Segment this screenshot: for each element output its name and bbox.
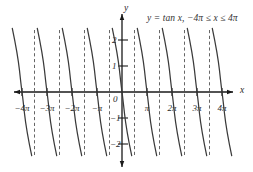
plot-canvas: [0, 0, 253, 172]
y-tick-label-neg2: −2: [110, 140, 121, 149]
x-tick-label-pi: π: [145, 104, 150, 113]
plot-title: y = tan x, −4π ≤ x ≤ 4π: [147, 14, 238, 24]
x-tick-label-negpi: −π: [92, 104, 103, 113]
x-tick-label-neg4pi: −4π: [14, 104, 29, 113]
y-tick-label-1: 1: [112, 62, 117, 71]
x-tick-label-2pi: 2π: [167, 104, 176, 113]
tangent-function-plot: y = tan x, −4π ≤ x ≤ 4π x y 0 −4π −3π −2…: [0, 0, 253, 172]
y-axis-label: y: [124, 4, 128, 14]
x-tick-label-4pi: 4π: [217, 104, 226, 113]
x-tick-label-neg3pi: −3π: [39, 104, 54, 113]
x-tick-label-3pi: 3π: [192, 104, 201, 113]
x-axis-label: x: [240, 86, 244, 96]
y-tick-label-2: 2: [112, 36, 117, 45]
y-tick-label-neg1: −1: [110, 114, 121, 123]
x-tick-label-neg2pi: −2π: [64, 104, 79, 113]
origin-label: 0: [113, 95, 118, 104]
